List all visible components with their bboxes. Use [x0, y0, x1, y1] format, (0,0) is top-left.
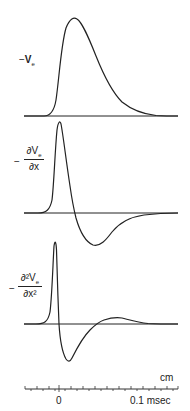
label-second-derivative: ∂²Ve ∂x² — [18, 272, 42, 299]
scale-unit-cm: cm — [160, 372, 173, 383]
curve-second-derivative — [24, 242, 178, 361]
numerator: ∂²Ve — [18, 272, 42, 287]
minus-sign-3: − — [9, 283, 15, 294]
numerator-text: ∂V — [27, 145, 39, 156]
curve-potential — [24, 18, 178, 116]
panel-second-derivative — [24, 242, 178, 361]
curve-first-derivative — [24, 122, 178, 245]
panel-potential — [24, 18, 178, 116]
numerator-text: ∂²V — [21, 272, 36, 283]
scale-end-label: 0.1 msec — [130, 395, 171, 406]
label-potential: −Ve — [19, 55, 35, 67]
label-first-derivative: ∂Ve ∂x — [24, 145, 44, 172]
scale-bar — [25, 385, 178, 392]
numerator: ∂Ve — [24, 145, 44, 160]
denominator: ∂x — [24, 160, 44, 172]
figure: −Ve − ∂Ve ∂x − ∂²Ve ∂x² cm 0 0.1 msec — [0, 0, 190, 411]
label-v: V — [25, 54, 32, 65]
minus-sign-2: − — [14, 156, 20, 167]
scale-zero-label: 0 — [56, 395, 62, 406]
panel-first-derivative — [24, 122, 178, 245]
numerator-sub: e — [38, 152, 41, 158]
label-sub-e: e — [32, 61, 35, 67]
denominator: ∂x² — [18, 287, 42, 299]
numerator-sub: e — [36, 279, 39, 285]
